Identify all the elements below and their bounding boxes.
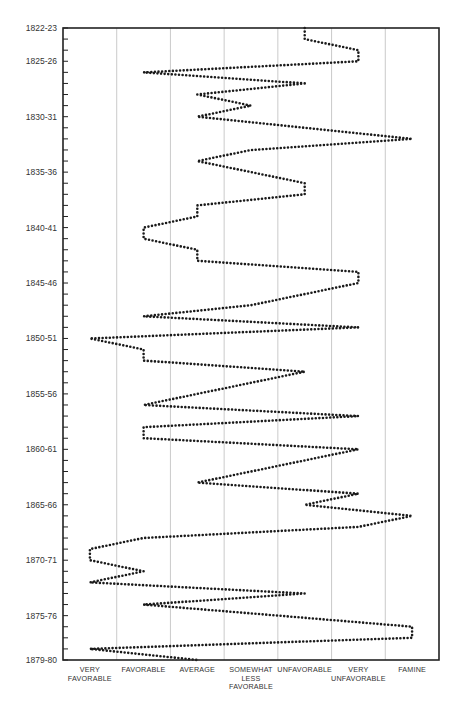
harvest-series-dotted-line bbox=[90, 28, 412, 660]
x-category-label: VERYUNFAVORABLE bbox=[331, 665, 386, 683]
x-category-label: VERYFAVORABLE bbox=[68, 665, 112, 683]
y-tick-label: 1875-76 bbox=[26, 611, 57, 621]
harvest-conditions-chart: 1822-231825-261830-311835-361840-411845-… bbox=[0, 0, 461, 707]
x-category-label: AVERAGE bbox=[179, 665, 215, 674]
y-tick-label: 1855-56 bbox=[26, 389, 57, 399]
y-tick-label: 1835-36 bbox=[26, 167, 57, 177]
x-category-label: SOMEWHATLESSFAVORABLE bbox=[229, 665, 273, 691]
y-tick-label: 1865-66 bbox=[26, 500, 57, 510]
y-tick-label: 1825-26 bbox=[26, 56, 57, 66]
y-tick-label: 1822-23 bbox=[26, 23, 57, 33]
x-category-label: FAVORABLE bbox=[122, 665, 166, 674]
x-axis: VERYFAVORABLEFAVORABLEAVERAGESOMEWHATLES… bbox=[68, 665, 426, 691]
x-category-label: UNFAVORABLE bbox=[277, 665, 332, 674]
y-tick-label: 1840-41 bbox=[26, 223, 57, 233]
x-category-label: FAMINE bbox=[398, 665, 426, 674]
y-tick-label: 1870-71 bbox=[26, 555, 57, 565]
y-tick-label: 1830-31 bbox=[26, 112, 57, 122]
y-tick-label: 1845-46 bbox=[26, 278, 57, 288]
vertical-gridlines bbox=[117, 28, 386, 660]
y-axis: 1822-231825-261830-311835-361840-411845-… bbox=[26, 23, 68, 665]
y-tick-label: 1850-51 bbox=[26, 333, 57, 343]
y-tick-label: 1879-80 bbox=[26, 655, 57, 665]
y-tick-label: 1860-61 bbox=[26, 444, 57, 454]
